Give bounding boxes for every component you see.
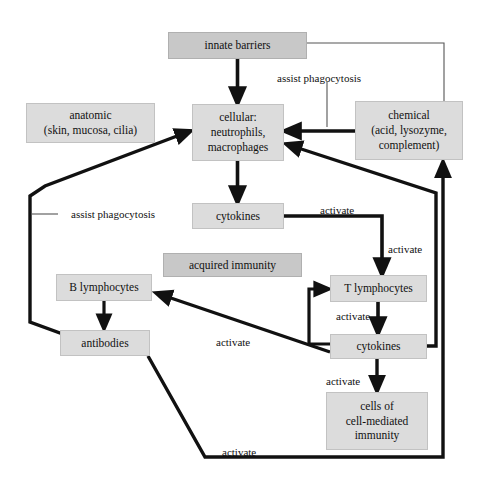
- edge-label-assist-phagocytosis-top: assist phagocytosis: [277, 72, 361, 84]
- node-cellular-label: cellular: neutrophils, macrophages: [204, 110, 273, 154]
- node-antibodies[interactable]: antibodies: [60, 330, 150, 356]
- node-innate-barriers-label: innate barriers: [200, 38, 274, 53]
- node-t-lymphocytes[interactable]: T lymphocytes: [330, 275, 427, 302]
- edge-label-activate-antibodies: activate: [222, 446, 256, 458]
- node-chemical-label: chemical (acid, lysozyme, complement): [367, 108, 451, 152]
- node-anatomic-label: anatomic (skin, mucosa, cilia): [40, 108, 141, 137]
- node-acquired-immunity-label: acquired immunity: [185, 258, 280, 273]
- node-t-lymphocytes-label: T lymphocytes: [340, 281, 416, 296]
- edge-label-activate-to-b: activate: [216, 336, 250, 348]
- node-cytokines-innate-label: cytokines: [212, 209, 264, 224]
- edge-label-activate-cytokines-to-t: activate: [320, 204, 354, 216]
- edge-label-activate-down-to-t: activate: [388, 243, 422, 255]
- edge-label-activate-to-cell-mediated: activate: [326, 375, 360, 387]
- node-antibodies-label: antibodies: [77, 336, 132, 351]
- node-cytokines-innate[interactable]: cytokines: [192, 203, 284, 229]
- edge-antibodies-loop-to-cellular: [30, 133, 185, 352]
- node-b-lymphocytes[interactable]: B lymphocytes: [56, 274, 152, 301]
- node-cellular[interactable]: cellular: neutrophils, macrophages: [192, 104, 284, 161]
- node-b-lymphocytes-label: B lymphocytes: [65, 280, 142, 295]
- node-innate-barriers[interactable]: innate barriers: [168, 32, 307, 59]
- edge-cytokines-acquired-to-t-lymphocytes: [309, 289, 330, 344]
- node-cytokines-acquired[interactable]: cytokines: [330, 334, 427, 359]
- node-cell-mediated-immunity[interactable]: cells of cell-mediated immunity: [326, 392, 428, 450]
- edge-label-assist-phagocytosis-left: assist phagocytosis: [71, 208, 155, 220]
- node-cell-mediated-immunity-label: cells of cell-mediated immunity: [342, 399, 413, 443]
- node-acquired-immunity[interactable]: acquired immunity: [163, 253, 302, 277]
- edge-label-activate-t-feedback: activate: [336, 310, 370, 322]
- immunity-flow-diagram: innate barriers anatomic (skin, mucosa, …: [0, 0, 478, 488]
- node-cytokines-acquired-label: cytokines: [352, 339, 404, 354]
- node-chemical[interactable]: chemical (acid, lysozyme, complement): [355, 101, 463, 160]
- node-anatomic[interactable]: anatomic (skin, mucosa, cilia): [26, 103, 155, 143]
